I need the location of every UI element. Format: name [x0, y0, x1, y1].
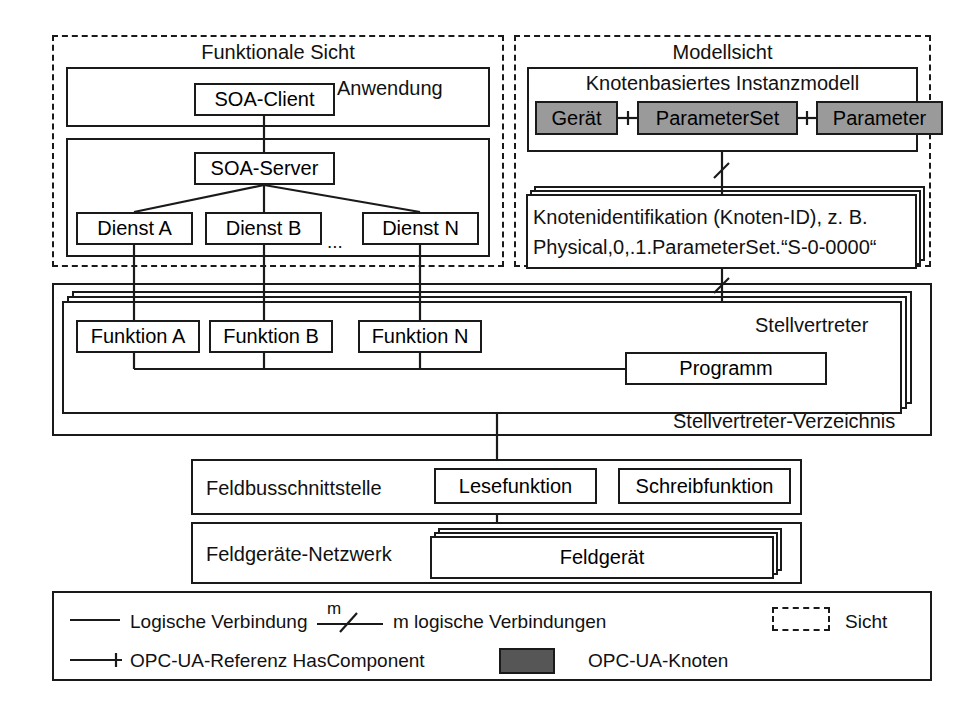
fieldbus-interface-label: Feldbusschnittstelle [206, 478, 382, 498]
field-device-network-label: Feldgeräte-Netzwerk [206, 544, 392, 564]
legend-m-symbol-label: m [327, 600, 341, 617]
diagram-canvas: Funktionale Sicht Anwendung SOA-Client S… [0, 0, 977, 720]
function-box-a[interactable]: Funktion A [76, 320, 200, 353]
legend-reference-label: OPC-UA-Referenz HasComponent [130, 651, 425, 670]
function-box-n[interactable]: Funktion N [358, 320, 482, 353]
services-ellipsis: ... [327, 232, 343, 251]
view-label-functional: Funktionale Sicht [52, 42, 504, 62]
field-device-box[interactable]: Feldgerät [430, 536, 774, 579]
opcua-node-parameterset[interactable]: ParameterSet [637, 101, 798, 135]
write-function-box[interactable]: Schreibfunktion [618, 468, 791, 504]
legend-node-label: OPC-UA-Knoten [588, 651, 728, 670]
instance-model-label: Knotenbasiertes Instanzmodell [527, 73, 918, 93]
opcua-node-geraet[interactable]: Gerät [535, 101, 618, 135]
legend-view-label: Sicht [845, 612, 887, 631]
service-box-n[interactable]: Dienst N [362, 212, 479, 245]
legend-view-swatch [772, 607, 830, 631]
legend-node-swatch [499, 648, 555, 674]
legend-logical-connection-label: Logische Verbindung [130, 612, 307, 631]
proxy-label: Stellvertreter [755, 315, 868, 335]
proxy-directory-label: Stellvertreter-Verzeichnis [673, 411, 895, 431]
soa-client-box[interactable]: SOA-Client [194, 83, 335, 116]
soa-server-box[interactable]: SOA-Server [194, 152, 335, 185]
view-label-model: Modellsicht [514, 42, 931, 62]
read-function-box[interactable]: Lesefunktion [434, 468, 597, 504]
program-box[interactable]: Programm [625, 352, 827, 385]
node-identification-line2: Physical,0,.1.ParameterSet.“S-0-0000“ [533, 237, 877, 257]
function-box-b[interactable]: Funktion B [209, 320, 333, 353]
service-box-a[interactable]: Dienst A [76, 212, 193, 245]
application-label: Anwendung [337, 78, 443, 98]
legend-m-connections-label: m logische Verbindungen [393, 612, 606, 631]
node-identification-line1: Knotenidentifikation (Knoten-ID), z. B. [533, 207, 868, 227]
service-box-b[interactable]: Dienst B [205, 212, 322, 245]
opcua-node-parameter[interactable]: Parameter [816, 101, 943, 135]
